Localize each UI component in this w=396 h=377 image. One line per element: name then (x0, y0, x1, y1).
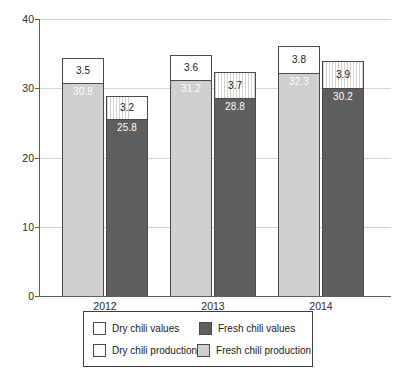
segment-dry-production-2013: 31.2 (171, 81, 211, 296)
legend-item-fresh-chili-production[interactable]: Fresh chili production (197, 339, 311, 361)
data-label-dry-production-2012: 30.8 (73, 86, 93, 97)
data-label-dry-production-2014: 32.3 (289, 76, 309, 87)
bar-dry-2014[interactable]: 3.8 32.3 (278, 46, 320, 297)
legend-label-fresh-chili-values: Fresh chili values (218, 323, 295, 334)
bar-dry-2012[interactable]: 3.5 30.8 (62, 58, 104, 297)
segment-dry-production-2012: 30.8 (63, 84, 103, 296)
legend-label-dry-chili-production: Dry chili production (112, 345, 197, 356)
legend-label-dry-chili-values: Dry chili values (112, 323, 179, 334)
data-label-dry-values-2012: 3.5 (76, 65, 90, 76)
x-axis-line (39, 296, 391, 297)
y-axis-line (39, 19, 40, 297)
bar-fresh-2013[interactable]: 3.7 28.8 (214, 72, 256, 297)
data-label-fresh-values-2014: 3.9 (336, 69, 350, 80)
segment-fresh-production-2012: 25.8 (107, 120, 147, 296)
ytick-40: 40 (0, 14, 34, 25)
ytick-20: 20 (0, 153, 34, 164)
data-label-fresh-values-2012: 3.2 (120, 102, 134, 113)
dry-values-swatch (93, 322, 106, 335)
ytick-label-0: 0 (4, 291, 34, 302)
data-label-dry-production-2013: 31.2 (181, 83, 201, 94)
ytick-10: 10 (0, 222, 34, 233)
fresh-values-swatch (199, 322, 212, 335)
segment-fresh-production-2013: 28.8 (215, 99, 255, 296)
segment-fresh-production-2014: 30.2 (323, 89, 363, 296)
ytick-label-40: 40 (4, 14, 34, 25)
data-label-fresh-production-2012: 25.8 (117, 122, 137, 133)
legend-item-dry-chili-production[interactable]: Dry chili production (93, 339, 197, 361)
segment-fresh-values-2012: 3.2 (107, 97, 147, 120)
segment-dry-values-2014: 3.8 (279, 47, 319, 74)
data-label-dry-values-2013: 3.6 (184, 62, 198, 73)
ytick-label-30: 30 (4, 83, 34, 94)
segment-fresh-values-2014: 3.9 (323, 62, 363, 89)
fresh-production-swatch (197, 344, 210, 357)
segment-dry-production-2014: 32.3 (279, 74, 319, 296)
chart-legend: Dry chili values Fresh chili values Dry … (83, 311, 313, 367)
segment-dry-values-2012: 3.5 (63, 59, 103, 84)
dry-production-swatch (93, 344, 106, 357)
data-label-fresh-production-2014: 30.2 (333, 91, 353, 102)
legend-label-fresh-chili-production: Fresh chili production (216, 345, 311, 356)
legend-item-dry-chili-values[interactable]: Dry chili values (93, 317, 199, 339)
data-label-fresh-production-2013: 28.8 (225, 101, 245, 112)
legend-row-values: Dry chili values Fresh chili values (93, 317, 303, 339)
ytick-30: 30 (0, 83, 34, 94)
bar-fresh-2014[interactable]: 3.9 30.2 (322, 61, 364, 297)
gridline-40 (39, 19, 391, 20)
plot-area: 40 30 20 10 0 3.5 30.8 3.2 (0, 0, 396, 305)
ytick-label-20: 20 (4, 153, 34, 164)
legend-item-fresh-chili-values[interactable]: Fresh chili values (199, 317, 303, 339)
ytick-0: 0 (0, 291, 34, 302)
legend-row-production: Dry chili production Fresh chili product… (93, 339, 303, 361)
ytick-label-10: 10 (4, 222, 34, 233)
chart-container: 40 30 20 10 0 3.5 30.8 3.2 (0, 0, 396, 377)
bar-dry-2013[interactable]: 3.6 31.2 (170, 55, 212, 297)
data-label-fresh-values-2013: 3.7 (228, 80, 242, 91)
segment-dry-values-2013: 3.6 (171, 56, 211, 81)
segment-fresh-values-2013: 3.7 (215, 73, 255, 99)
data-label-dry-values-2014: 3.8 (292, 54, 306, 65)
bar-fresh-2012[interactable]: 3.2 25.8 (106, 96, 148, 297)
